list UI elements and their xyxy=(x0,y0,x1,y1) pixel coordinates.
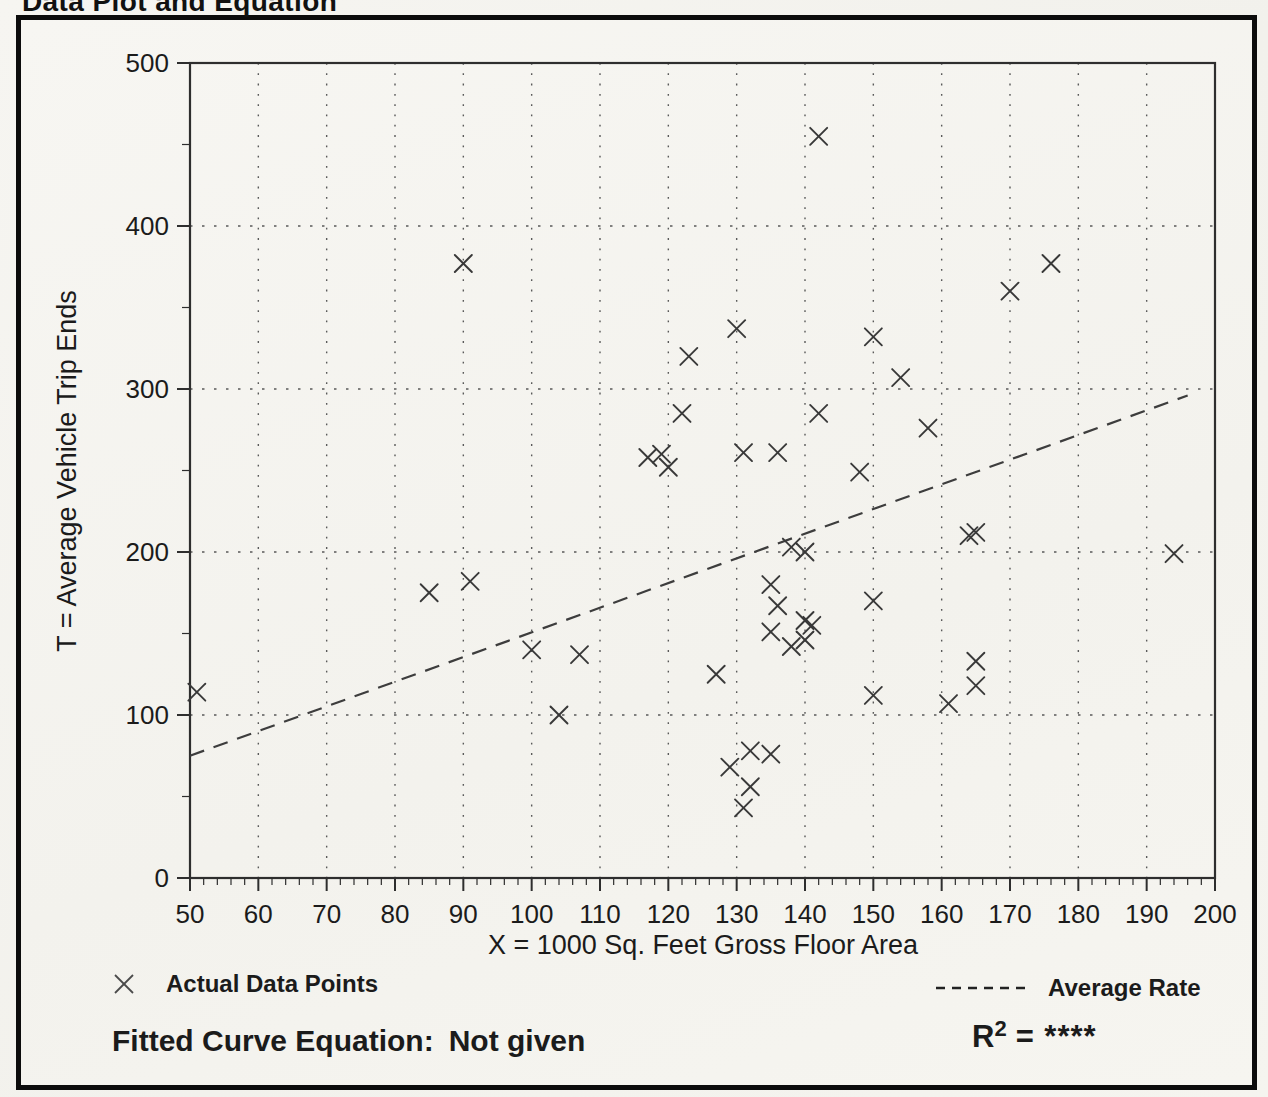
svg-text:120: 120 xyxy=(647,899,690,929)
svg-text:130: 130 xyxy=(715,899,758,929)
svg-text:50: 50 xyxy=(176,899,205,929)
x-axis-label: X = 1000 Sq. Feet Gross Floor Area xyxy=(488,930,918,961)
svg-text:60: 60 xyxy=(244,899,273,929)
svg-text:100: 100 xyxy=(126,700,169,730)
legend-data-points-label: Actual Data Points xyxy=(166,970,378,998)
x-marker-icon xyxy=(112,972,136,996)
svg-text:90: 90 xyxy=(449,899,478,929)
svg-text:110: 110 xyxy=(579,899,620,929)
svg-text:160: 160 xyxy=(920,899,963,929)
svg-text:200: 200 xyxy=(1193,899,1236,929)
svg-text:180: 180 xyxy=(1057,899,1100,929)
legend-average-rate: Average Rate xyxy=(936,974,1201,1002)
r-squared-base: R xyxy=(972,1019,994,1054)
svg-text:200: 200 xyxy=(126,537,169,567)
r-squared-exponent: 2 xyxy=(994,1016,1006,1041)
fitted-curve-equation-value: Not given xyxy=(449,1024,586,1057)
svg-text:150: 150 xyxy=(852,899,895,929)
svg-text:0: 0 xyxy=(155,863,169,893)
svg-text:400: 400 xyxy=(126,211,169,241)
svg-text:100: 100 xyxy=(510,899,553,929)
svg-text:170: 170 xyxy=(988,899,1031,929)
legend-actual-data-points: Actual Data Points xyxy=(112,970,378,998)
scatter-plot: 5060708090100110120130140150160170180190… xyxy=(0,0,1268,968)
y-axis-label: T = Average Vehicle Trip Ends xyxy=(52,290,83,651)
r-squared: R2= **** xyxy=(972,1019,1097,1055)
svg-text:300: 300 xyxy=(126,374,169,404)
svg-text:140: 140 xyxy=(783,899,826,929)
svg-text:70: 70 xyxy=(312,899,341,929)
dashed-line-icon xyxy=(936,983,1030,993)
r-squared-value: = **** xyxy=(1016,1019,1097,1054)
svg-text:500: 500 xyxy=(126,48,169,78)
svg-text:190: 190 xyxy=(1125,899,1168,929)
fitted-curve-equation-label: Fitted Curve Equation: xyxy=(112,1024,434,1057)
svg-text:80: 80 xyxy=(381,899,410,929)
legend-average-rate-label: Average Rate xyxy=(1048,974,1201,1002)
fitted-curve-equation: Fitted Curve Equation:Not given xyxy=(112,1024,585,1058)
